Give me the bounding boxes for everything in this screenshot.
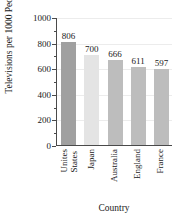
x-tick-label-slot: Australia bbox=[105, 149, 125, 205]
y-tick-major bbox=[52, 69, 56, 70]
x-tick-label-line: Unites bbox=[58, 149, 68, 173]
bar-chart-figure: Televisions per 1000 People 020040060080… bbox=[0, 0, 179, 216]
y-tick-minor bbox=[54, 56, 57, 57]
y-tick-label: 800 bbox=[38, 39, 52, 48]
y-axis-title: Televisions per 1000 People bbox=[4, 0, 14, 111]
bar bbox=[61, 42, 76, 145]
y-tick-label: 200 bbox=[38, 116, 52, 125]
y-tick-major bbox=[52, 120, 56, 121]
x-tick-label: France bbox=[157, 149, 167, 174]
y-tick-label: 600 bbox=[38, 65, 52, 74]
bar-value-label: 597 bbox=[147, 59, 175, 68]
y-tick-major bbox=[52, 18, 56, 19]
x-axis-line bbox=[56, 145, 172, 146]
gridline bbox=[57, 18, 172, 19]
bar bbox=[108, 60, 123, 145]
bar bbox=[154, 69, 169, 145]
x-tick-label-line: England bbox=[132, 149, 142, 179]
y-tick-minor bbox=[54, 82, 57, 83]
plot-area: 02004006008001000 806700666611597 bbox=[56, 18, 172, 146]
x-tick-label-line: States bbox=[69, 149, 79, 173]
x-tick-label-slot: France bbox=[151, 149, 171, 205]
x-tick-label-slot: England bbox=[128, 149, 148, 205]
y-tick-major bbox=[52, 44, 56, 45]
x-tick-label: Australia bbox=[110, 149, 120, 182]
x-tick-label: England bbox=[133, 149, 143, 179]
x-tick-label-slot: UnitesStates bbox=[59, 149, 79, 205]
x-tick-label-slot: Japan bbox=[82, 149, 102, 205]
x-tick-label-line: Australia bbox=[109, 149, 119, 182]
x-tick-label: UnitesStates bbox=[59, 149, 78, 173]
y-tick-minor bbox=[54, 108, 57, 109]
x-tick-label-line: Japan bbox=[86, 149, 96, 170]
x-tick-label-line: France bbox=[156, 149, 166, 174]
bar bbox=[84, 55, 99, 145]
y-tick-label: 400 bbox=[38, 90, 52, 99]
y-tick-minor bbox=[54, 133, 57, 134]
y-tick-major bbox=[52, 146, 56, 147]
y-tick-label: 0 bbox=[47, 142, 52, 151]
y-tick-major bbox=[52, 95, 56, 96]
y-tick-label: 1000 bbox=[33, 14, 51, 23]
x-axis-title: Country bbox=[56, 203, 172, 213]
x-tick-label: Japan bbox=[87, 149, 97, 170]
bar bbox=[131, 67, 146, 145]
bar-value-label: 806 bbox=[55, 32, 83, 41]
